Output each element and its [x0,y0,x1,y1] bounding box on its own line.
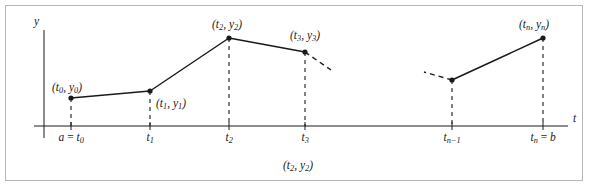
data-points-group [68,35,545,100]
point-label-pn: (tn, yn) [519,19,549,31]
dashed-stubs-group [305,52,452,80]
y-axis-label: y [34,16,39,28]
tick-label-t2: t2 [226,132,233,144]
tick-label-t3: t3 [302,132,309,144]
point-label-p1: (t1, y1) [156,98,186,110]
tick-label-t1: t1 [147,132,154,144]
tick-label-tn: tn = b [531,132,556,144]
dashed-stub-1 [424,72,452,80]
data-point-t₀ [68,95,73,100]
tick-label-t0: a = t0 [59,132,84,144]
data-point-t₁ [147,88,152,93]
point-label-p3: (t3, y3) [290,30,320,42]
figure-caption: (t2, y2) [283,160,313,172]
x-axis-label: t [573,113,576,125]
data-point-tₙ [540,35,545,40]
axes-group [34,30,568,138]
segment-1 [150,38,229,91]
dashed-stub-0 [305,52,331,70]
data-point-tₙ₋₁ [449,77,454,82]
tick-label-tn1: tn−1 [444,132,461,144]
point-label-p2: (t2, y2) [212,19,242,31]
data-point-t₃ [302,49,307,54]
data-point-t₂ [226,35,231,40]
figure-container: (t0, y0)(t1, y1)(t2, y2)(t3, y3)(tn, yn)… [0,0,596,189]
segment-3 [452,38,543,80]
segment-0 [71,91,150,98]
polyline-group [71,38,543,98]
point-label-p0: (t0, y0) [52,82,82,94]
